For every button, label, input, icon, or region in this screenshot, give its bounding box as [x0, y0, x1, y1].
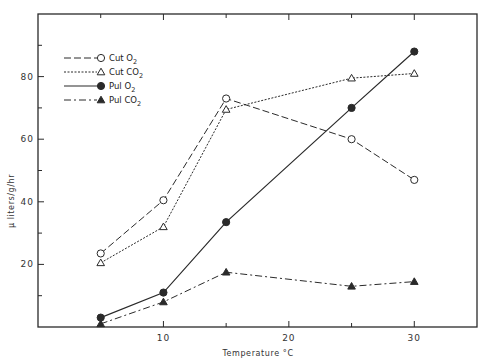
open-triangle-marker [97, 68, 105, 75]
data-series [97, 48, 418, 327]
filled-triangle-marker [97, 96, 105, 103]
filled-circle-marker [223, 219, 230, 226]
filled-circle-marker [348, 104, 355, 111]
y-tick-label: 60 [21, 134, 34, 144]
open-circle-marker [223, 95, 230, 102]
filled-triangle-marker [222, 268, 230, 275]
series-line [101, 272, 415, 324]
filled-triangle-marker [410, 278, 418, 285]
series-line [101, 52, 415, 318]
legend-item: Cut CO2 [64, 67, 143, 80]
plot-border [38, 14, 477, 327]
y-tick-label: 20 [21, 259, 34, 269]
open-triangle-marker [160, 223, 168, 230]
y-tick-label: 80 [21, 72, 34, 82]
series-pul-o2 [97, 48, 418, 321]
axis-ticks [38, 14, 414, 327]
legend: Cut O2Cut CO2Pul O2Pul CO2 [64, 53, 143, 108]
x-tick-label: 30 [408, 333, 421, 343]
legend-label: Cut CO2 [109, 67, 143, 80]
legend-label: Pul CO2 [109, 95, 141, 108]
legend-item: Cut O2 [64, 53, 137, 66]
open-triangle-marker [97, 259, 105, 266]
x-tick-label: 10 [157, 333, 170, 343]
filled-circle-marker [411, 48, 418, 55]
line-chart: 10203020406080 Cut O2Cut CO2Pul O2Pul CO… [0, 0, 487, 360]
x-tick-label: 20 [282, 333, 295, 343]
series-cut-o2 [97, 95, 418, 257]
series-line [101, 73, 415, 262]
open-circle-marker [97, 54, 104, 61]
y-tick-label: 40 [21, 197, 34, 207]
plot-frame [38, 14, 477, 327]
series-pul-co2 [97, 268, 418, 326]
axis-tick-labels: 10203020406080 [21, 72, 421, 343]
series-line [101, 99, 415, 254]
legend-label: Cut O2 [109, 53, 137, 66]
series-cut-co2 [97, 70, 418, 266]
open-circle-marker [411, 176, 418, 183]
open-circle-marker [348, 136, 355, 143]
x-axis-label: Temperature °C [221, 349, 293, 358]
open-circle-marker [160, 197, 167, 204]
legend-item: Pul CO2 [64, 95, 141, 108]
y-axis-label: μ liters/g/hr [7, 174, 16, 228]
open-triangle-marker [410, 70, 418, 77]
legend-item: Pul O2 [64, 81, 135, 94]
filled-circle-marker [97, 82, 104, 89]
filled-triangle-marker [160, 298, 168, 305]
open-circle-marker [97, 250, 104, 257]
filled-circle-marker [160, 289, 167, 296]
legend-label: Pul O2 [109, 81, 135, 94]
